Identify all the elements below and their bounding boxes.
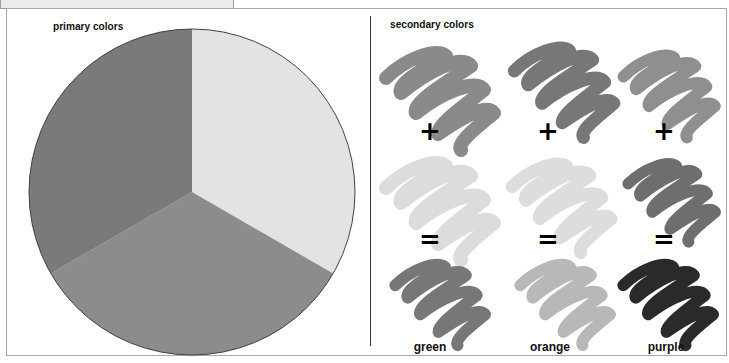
plus-icon: +	[536, 118, 560, 144]
orange-top-scribble	[505, 32, 625, 147]
page-title: COLORS	[7, 0, 117, 5]
equals-icon: =	[418, 226, 442, 252]
plus-icon: +	[652, 118, 676, 144]
orange-label: orange	[510, 340, 590, 354]
orange-middle-scribble	[500, 150, 625, 260]
green-result-scribble	[376, 252, 506, 352]
plus-icon: +	[418, 118, 442, 144]
secondary-colors-label: secondary colors	[390, 18, 474, 30]
purple-label: purple	[626, 340, 706, 354]
orange-result-scribble	[506, 252, 626, 352]
equals-icon: =	[536, 226, 560, 252]
equals-icon: =	[652, 226, 676, 252]
primary-colors-pie	[28, 28, 356, 356]
green-label: green	[390, 340, 470, 354]
purple-result-scribble	[614, 252, 724, 352]
section-divider	[370, 16, 371, 346]
